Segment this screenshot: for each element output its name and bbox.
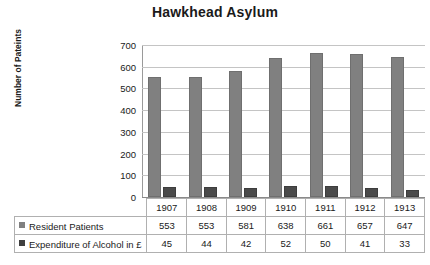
table-cell-year-1912: 1912 xyxy=(345,199,385,217)
table-row-secondary: Expenditure of Alcohol in £ 454442525041… xyxy=(15,235,425,253)
legend-item-expenditure-alcohol: Expenditure of Alcohol in £ xyxy=(15,235,147,253)
bar-resident-patients-1910 xyxy=(269,58,282,197)
y-axis-title: Number of Pateints xyxy=(13,3,29,133)
bar-expenditure-alcohol-1907 xyxy=(163,187,176,197)
bar-resident-patients-1911 xyxy=(310,53,323,197)
y-tick-label-200: 200 xyxy=(102,148,136,159)
legend-swatch-icon xyxy=(19,222,25,228)
table-cell-year-1913: 1913 xyxy=(385,199,425,217)
table-cell-year-1911: 1911 xyxy=(306,199,346,217)
legend-label: Resident Patients xyxy=(29,220,103,231)
bar-resident-patients-1908 xyxy=(189,77,202,197)
table-cell-resident-1910: 638 xyxy=(266,217,306,235)
table-cell-resident-1911: 661 xyxy=(306,217,346,235)
y-tick-label-100: 100 xyxy=(102,170,136,181)
table-cell-expenditure-1908: 44 xyxy=(187,235,227,253)
table-cell-expenditure-1913: 33 xyxy=(385,235,425,253)
legend-label: Expenditure of Alcohol in £ xyxy=(29,238,142,249)
table-cell-resident-1912: 657 xyxy=(345,217,385,235)
y-tick-label-300: 300 xyxy=(102,126,136,137)
bar-resident-patients-1913 xyxy=(391,57,404,197)
table-cell-expenditure-1911: 50 xyxy=(306,235,346,253)
table-cell-resident-1909: 581 xyxy=(226,217,266,235)
bars-layer xyxy=(142,45,425,197)
bar-expenditure-alcohol-1911 xyxy=(325,186,338,197)
table-cell-resident-1913: 647 xyxy=(385,217,425,235)
table-cell-resident-1907: 553 xyxy=(147,217,187,235)
chart-title: Hawkhead Asylum xyxy=(0,4,430,20)
table-cell-expenditure-1907: 45 xyxy=(147,235,187,253)
y-tick-label-500: 500 xyxy=(102,83,136,94)
table-cell-year-1907: 1907 xyxy=(147,199,187,217)
y-tick-label-600: 600 xyxy=(102,61,136,72)
bar-group-1911 xyxy=(304,45,344,197)
bar-resident-patients-1907 xyxy=(148,77,161,197)
bar-resident-patients-1912 xyxy=(350,54,363,197)
bar-group-1912 xyxy=(344,45,384,197)
chart-container: Hawkhead Asylum Number of Pateints 01002… xyxy=(0,0,430,265)
table-cell-expenditure-1909: 42 xyxy=(226,235,266,253)
y-tick-label-700: 700 xyxy=(102,40,136,51)
bar-expenditure-alcohol-1910 xyxy=(284,186,297,197)
bar-expenditure-alcohol-1909 xyxy=(244,188,257,197)
legend-item-resident-patients: Resident Patients xyxy=(15,217,147,235)
table-row-primary: Resident Patients 553553581638661657647 xyxy=(15,217,425,235)
bar-expenditure-alcohol-1912 xyxy=(365,188,378,197)
table-cell-expenditure-1912: 41 xyxy=(345,235,385,253)
legend-swatch-icon xyxy=(19,240,25,246)
plot-area xyxy=(142,45,425,197)
bar-group-1913 xyxy=(385,45,425,197)
bar-group-1909 xyxy=(223,45,263,197)
table-cell-year-1908: 1908 xyxy=(187,199,227,217)
table-cell-year-1910: 1910 xyxy=(266,199,306,217)
bar-expenditure-alcohol-1913 xyxy=(406,190,419,197)
bar-group-1910 xyxy=(263,45,303,197)
table-cell-resident-1908: 553 xyxy=(187,217,227,235)
bar-resident-patients-1909 xyxy=(229,71,242,197)
legend-cell-empty xyxy=(15,199,147,217)
data-table: 1907190819091910191119121913 Resident Pa… xyxy=(14,198,425,253)
bar-group-1907 xyxy=(142,45,182,197)
bar-group-1908 xyxy=(182,45,222,197)
y-tick-label-400: 400 xyxy=(102,105,136,116)
table-row-years: 1907190819091910191119121913 xyxy=(15,199,425,217)
table-cell-expenditure-1910: 52 xyxy=(266,235,306,253)
bar-expenditure-alcohol-1908 xyxy=(204,187,217,197)
table-cell-year-1909: 1909 xyxy=(226,199,266,217)
